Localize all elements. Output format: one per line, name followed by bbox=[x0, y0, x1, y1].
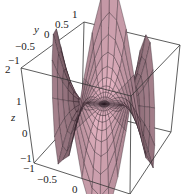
x-tick-0: 0 bbox=[72, 184, 78, 194]
y-tick-1: 1 bbox=[72, 9, 78, 20]
y-tick-0: 0 bbox=[44, 29, 50, 40]
z-tick-1: 1 bbox=[16, 96, 22, 107]
y-axis-label: y bbox=[34, 24, 39, 35]
x-tick-minus-1: −1 bbox=[23, 163, 35, 174]
z-tick-2: 2 bbox=[5, 64, 11, 75]
surface-patch bbox=[102, 121, 107, 130]
x-tick-minus-0.5: −0.5 bbox=[37, 174, 57, 185]
z-tick-0: 0 bbox=[22, 128, 28, 139]
y-tick-minus-0.5: −0.5 bbox=[15, 41, 35, 52]
y-tick-0.5: 0.5 bbox=[55, 19, 69, 30]
z-axis-label: z bbox=[11, 112, 15, 123]
